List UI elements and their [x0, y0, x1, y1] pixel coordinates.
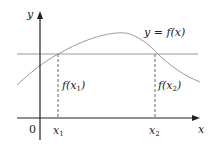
- x-axis-arrow-icon: [192, 115, 200, 121]
- x-axis-label: x: [198, 124, 204, 135]
- f-x2-label: f(x2): [158, 80, 181, 93]
- origin-label: 0: [29, 124, 36, 135]
- x2-tick-label: x2: [149, 125, 160, 138]
- y-axis-arrow-icon: [37, 11, 43, 19]
- x1-tick-label: x1: [53, 125, 64, 138]
- curve-label: y = f(x): [144, 27, 185, 38]
- y-axis-label: y: [27, 9, 33, 20]
- f-x1-label: f(x1): [62, 80, 85, 93]
- function-curve: [17, 33, 200, 85]
